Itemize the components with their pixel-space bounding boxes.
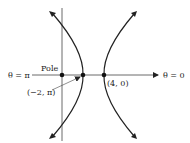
theta-zero-label: θ = 0: [163, 71, 185, 80]
right-vertex-point: [102, 73, 107, 78]
theta-pi-label: θ = π: [8, 71, 30, 80]
pole-point: [60, 73, 65, 78]
right-vertex-label: (4, 0): [107, 79, 129, 88]
pole-label: Pole: [41, 64, 58, 73]
polar-hyperbola-diagram: θ = π Pole θ = 0 (4, 0) (−2, π): [0, 0, 190, 143]
left-vertex-leader-arrow: [52, 77, 80, 90]
left-vertex-label: (−2, π): [27, 88, 55, 97]
left-vertex-point: [81, 73, 86, 78]
